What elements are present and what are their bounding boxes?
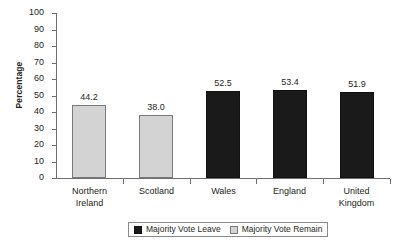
y-axis-tick-label: 10 <box>0 157 44 166</box>
y-axis-tick-label: 40 <box>0 107 44 116</box>
x-axis-category-label-line: Scotland <box>123 186 190 198</box>
x-axis-category-label-line: Northern <box>56 186 123 198</box>
y-axis-tick-label: 50 <box>0 91 44 100</box>
y-axis-tick-label: 60 <box>0 74 44 83</box>
x-axis-category-label-line: Ireland <box>56 198 123 210</box>
legend-item-remain: Majority Vote Remain <box>230 225 323 234</box>
y-axis-tick-label: 20 <box>0 140 44 149</box>
x-axis-category-label: Wales <box>190 186 257 198</box>
y-axis-tick-label: 0 <box>0 173 44 182</box>
bar-value-label: 52.5 <box>198 78 248 88</box>
legend-swatch-remain-icon <box>230 226 238 234</box>
legend: Majority Vote Leave Majority Vote Remain <box>128 222 328 237</box>
bar-value-label: 53.4 <box>265 77 315 87</box>
bar <box>139 115 173 178</box>
legend-label-remain: Majority Vote Remain <box>242 225 323 234</box>
x-axis-tick <box>190 179 191 184</box>
y-axis-tick-label: 70 <box>0 58 44 67</box>
x-axis-category-label-line: England <box>256 186 323 198</box>
bar <box>206 91 240 178</box>
legend-swatch-leave-icon <box>134 226 142 234</box>
bar <box>273 90 307 178</box>
x-axis-tick <box>323 179 324 184</box>
bar <box>340 92 374 178</box>
bar-chart: Percentage 0102030405060708090100 44.238… <box>0 0 410 242</box>
bar-value-label: 51.9 <box>332 79 382 89</box>
x-axis-category-label: NorthernIreland <box>56 186 123 209</box>
bar <box>72 105 106 178</box>
y-axis-line <box>56 13 57 179</box>
y-axis-tick-label: 80 <box>0 41 44 50</box>
y-axis-tick-label: 30 <box>0 124 44 133</box>
x-axis-line <box>56 178 390 179</box>
y-axis-tick-label: 90 <box>0 25 44 34</box>
x-axis-tick <box>123 179 124 184</box>
x-axis-category-label: England <box>256 186 323 198</box>
x-axis-category-label-line: Kingdom <box>323 198 390 210</box>
y-axis-tick-label: 100 <box>0 8 44 17</box>
x-axis-category-label-line: Wales <box>190 186 257 198</box>
legend-item-leave: Majority Vote Leave <box>134 225 221 234</box>
x-axis-category-label: Scotland <box>123 186 190 198</box>
x-axis-tick <box>256 179 257 184</box>
legend-label-leave: Majority Vote Leave <box>146 225 221 234</box>
x-axis-tick <box>390 179 391 184</box>
x-axis-category-label-line: United <box>323 186 390 198</box>
bar-value-label: 38.0 <box>131 102 181 112</box>
x-axis-category-label: UnitedKingdom <box>323 186 390 209</box>
bar-value-label: 44.2 <box>64 92 114 102</box>
